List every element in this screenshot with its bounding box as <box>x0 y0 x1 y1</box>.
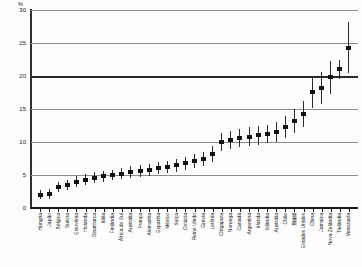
x-tick-label: Grécia <box>201 213 206 228</box>
x-tick <box>167 208 168 212</box>
x-tick-label: Croácia <box>183 213 188 230</box>
x-tick <box>213 208 214 212</box>
x-tick-label: Noruega <box>228 213 233 232</box>
x-tick-label: Tailândia <box>337 213 342 233</box>
x-tick-label: Jamaica <box>319 213 324 232</box>
y-tick-label: 25 <box>19 40 26 46</box>
data-marker <box>210 152 215 156</box>
data-marker <box>319 86 324 90</box>
x-tick <box>267 208 268 212</box>
x-tick <box>58 208 59 212</box>
x-tick <box>195 208 196 212</box>
x-tick-label: Suíça <box>174 213 179 226</box>
y-tick-label: 20 <box>19 73 26 79</box>
x-tick-label: Japão <box>47 213 52 227</box>
x-tick-label: Islândia <box>265 213 270 230</box>
data-series <box>31 10 358 208</box>
x-tick-label: Austrália <box>128 213 133 232</box>
data-marker <box>265 132 270 136</box>
x-tick <box>158 208 159 212</box>
data-marker <box>138 169 143 173</box>
x-tick-label: Reino Unido <box>192 213 197 241</box>
x-tick-label: Itália <box>101 213 106 224</box>
x-tick-label: Eslovênia <box>74 213 79 235</box>
x-tick <box>113 208 114 212</box>
data-marker <box>192 159 197 163</box>
x-tick <box>131 208 132 212</box>
x-tick-label: China <box>310 213 315 226</box>
x-tick-label: Finlândia <box>110 213 115 233</box>
x-tick <box>340 208 341 212</box>
y-tick-label: 30 <box>19 7 26 13</box>
x-tick <box>149 208 150 212</box>
data-marker <box>346 46 351 50</box>
data-marker <box>128 170 133 174</box>
x-tick-label: Estados Unidos <box>301 213 306 248</box>
data-marker <box>310 90 315 94</box>
x-tick <box>95 208 96 212</box>
data-marker <box>83 178 88 182</box>
x-tick-label: Holanda <box>83 213 88 232</box>
x-tick-label: África do Sul <box>119 213 124 241</box>
chart-container: % 302520151050 HungriaJapãoBélgicaSuécia… <box>0 0 362 267</box>
x-tick <box>331 208 332 212</box>
data-marker <box>74 180 79 184</box>
data-marker <box>92 176 97 180</box>
x-tick <box>140 208 141 212</box>
data-marker <box>292 119 297 123</box>
data-marker <box>56 185 61 189</box>
x-tick-label: Brasil <box>292 213 297 226</box>
data-marker <box>110 173 115 177</box>
x-tick <box>122 208 123 212</box>
x-tick-label: Hungria <box>38 213 43 231</box>
data-marker <box>165 165 170 169</box>
y-tick-label: 10 <box>19 139 26 145</box>
x-tick <box>176 208 177 212</box>
x-tick-label: México <box>165 213 170 229</box>
data-marker <box>174 163 179 167</box>
x-tick <box>40 208 41 212</box>
x-tick-label: Irlanda <box>256 213 261 228</box>
x-tick-label: Suécia <box>65 213 70 228</box>
x-tick <box>294 208 295 212</box>
x-tick <box>240 208 241 212</box>
data-marker <box>274 130 279 134</box>
x-tick-label: Dinamarca <box>92 213 97 237</box>
x-tick-label: Alemanha <box>147 213 152 236</box>
x-tick-label: Cingapura <box>219 213 224 236</box>
x-tick <box>104 208 105 212</box>
data-marker <box>283 125 288 129</box>
data-marker <box>119 172 124 176</box>
data-marker <box>201 157 206 161</box>
x-tick-label: Bélgica <box>56 213 61 229</box>
y-tick-label: 5 <box>23 172 26 178</box>
data-marker <box>183 161 188 165</box>
x-tick <box>49 208 50 212</box>
x-tick-label: Nova Zelândia <box>328 213 333 245</box>
x-tick-label: Letônia <box>210 213 215 229</box>
x-axis-ticks <box>31 208 358 212</box>
y-tick-label: 0 <box>23 205 26 211</box>
data-marker <box>247 135 252 139</box>
data-marker <box>337 67 342 71</box>
data-marker <box>47 192 52 196</box>
data-marker <box>237 136 242 140</box>
data-marker <box>228 138 233 142</box>
x-tick <box>222 208 223 212</box>
data-marker <box>219 140 224 144</box>
x-tick-label: Canadá <box>237 213 242 231</box>
x-tick <box>204 208 205 212</box>
data-marker <box>101 174 106 178</box>
x-tick <box>67 208 68 212</box>
x-tick <box>86 208 87 212</box>
x-tick <box>185 208 186 212</box>
data-marker <box>328 75 333 79</box>
x-tick <box>276 208 277 212</box>
x-axis-labels: HungriaJapãoBélgicaSuéciaEslovêniaHoland… <box>31 213 358 265</box>
x-tick <box>231 208 232 212</box>
x-tick <box>76 208 77 212</box>
x-tick <box>258 208 259 212</box>
plot-area <box>31 10 358 208</box>
x-tick-label: Chile <box>283 213 288 224</box>
x-tick <box>349 208 350 212</box>
